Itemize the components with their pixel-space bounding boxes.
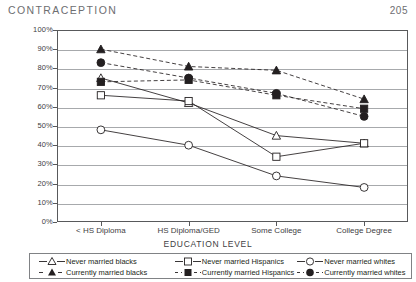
open-triangle-data-point [272,131,280,139]
series-line [101,49,364,99]
open-square-data-point [361,140,368,147]
filled-square-data-point [97,78,104,85]
series-currently-married-blacks [97,45,369,103]
filled-square-data-point [361,105,368,112]
open-square-data-point [185,97,192,104]
legend-row: Never married blacks Never married Hispa… [30,256,411,267]
legend-item-never-married-whites[interactable]: Never married whites [296,256,411,267]
y-axis-tick-label: 10% [13,198,53,207]
legend-label: Never married blacks [66,257,137,266]
chart-legend: Never married blacks Never married Hispa… [29,253,412,279]
filled-circle-data-point [97,59,105,67]
open-circle-data-point [272,172,280,180]
series-currently-married-whites [97,59,368,121]
y-axis-tick-label: 20% [13,179,53,188]
filled-circle-data-point [185,74,193,82]
legend-item-never-married-hispanics[interactable]: Never married Hispanics [174,256,296,267]
filled-circle-marker-icon [296,267,324,278]
series-currently-married-hispanics [97,76,367,112]
legend-label: Never married Hispanics [202,257,284,266]
y-axis-tick [53,222,57,223]
y-axis-tick-label: 70% [13,83,53,92]
y-axis-tick-label: 40% [13,140,53,149]
legend-label: Currently married blacks [66,268,147,277]
page-title: CONTRACEPTION [8,4,117,16]
series-never-married-whites [97,126,368,191]
series-layer [57,30,408,222]
series-never-married-hispanics [97,92,367,161]
open-triangle-marker-icon [38,256,66,267]
x-axis-tick-label: College Degree [309,226,416,235]
open-circle-data-point [185,141,193,149]
legend-item-currently-married-blacks[interactable]: Currently married blacks [30,267,174,278]
y-axis-tick-label: 90% [13,44,53,53]
x-axis-title: EDUCATION LEVEL [0,239,416,249]
filled-triangle-data-point [360,95,368,103]
series-line [101,130,364,188]
filled-circle-data-point [272,89,280,97]
y-axis-tick-label: 0% [13,217,53,226]
legend-label: Currently married Hispanics [202,268,295,277]
filled-square-marker-icon [174,267,202,278]
series-line [101,80,364,109]
open-circle-marker-icon [296,256,324,267]
page-number: 205 [390,5,408,16]
legend-item-currently-married-hispanics[interactable]: Currently married Hispanics [174,267,296,278]
open-square-data-point [273,153,280,160]
y-axis-tick-label: 100% [13,25,53,34]
legend-label: Never married whites [324,257,395,266]
open-square-marker-icon [174,256,202,267]
page-header: CONTRACEPTION 205 [8,4,408,22]
y-axis-tick-label: 30% [13,159,53,168]
legend-row: Currently married blacks Currently marri… [30,267,411,278]
filled-triangle-marker-icon [38,267,66,278]
legend-item-never-married-blacks[interactable]: Never married blacks [30,256,174,267]
open-circle-data-point [97,126,105,134]
open-square-data-point [97,92,104,99]
y-axis-tick-label: 50% [13,121,53,130]
y-axis-tick-label: 60% [13,102,53,111]
series-line [101,95,364,156]
legend-item-currently-married-whites[interactable]: Currently married whites [296,267,411,278]
line-chart: 0%10%20%30%40%50%60%70%80%90%100% < HS D… [0,22,416,254]
y-axis-tick-label: 80% [13,63,53,72]
filled-triangle-data-point [97,45,105,53]
legend-label: Currently married whites [324,268,405,277]
open-circle-data-point [360,184,368,192]
filled-circle-data-point [360,113,368,121]
